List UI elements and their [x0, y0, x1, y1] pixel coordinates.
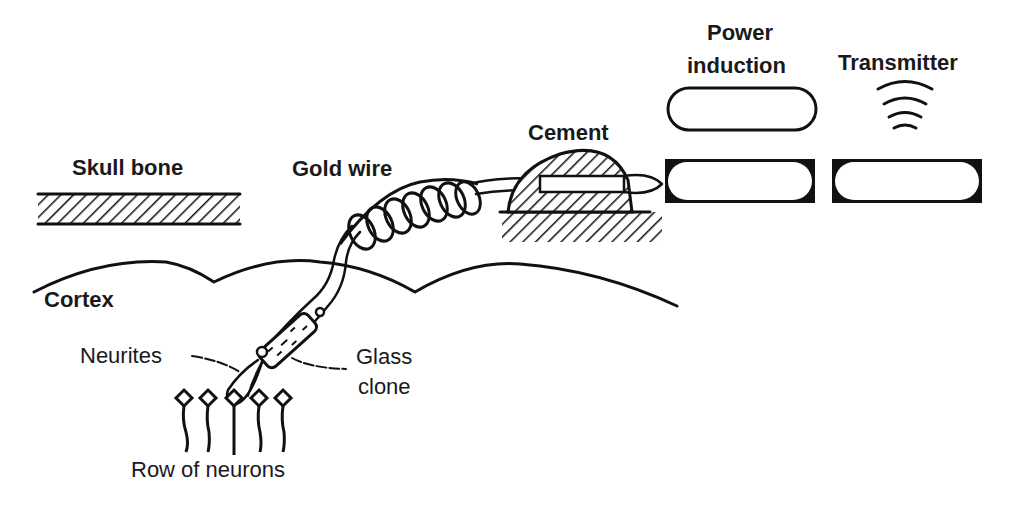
- radio-waves-icon: [878, 82, 932, 129]
- transmitter-implant: [832, 159, 982, 203]
- power-induction-implant: [665, 159, 815, 203]
- glass-clone-leader: [292, 358, 346, 369]
- neuron: [251, 390, 267, 452]
- power-induction-label-line2: induction: [687, 53, 786, 78]
- neurites-label: Neurites: [80, 343, 162, 368]
- neuron-row: [176, 390, 291, 455]
- glass-clone-label-line2: clone: [358, 374, 411, 399]
- neurites-leader: [192, 356, 240, 372]
- cortex-surface: [34, 261, 677, 306]
- glass-clone-label-line1: Glass: [356, 344, 412, 369]
- implant-diagram: Skull bone Cortex Gold wire Cement: [0, 0, 1015, 506]
- glass-electrode: [227, 308, 324, 404]
- cortex-label: Cortex: [44, 287, 114, 312]
- skull-bone: [38, 194, 240, 224]
- gold-wire-label: Gold wire: [292, 156, 392, 181]
- neuron: [200, 390, 216, 452]
- neuron: [275, 390, 291, 452]
- cement-label: Cement: [528, 120, 609, 145]
- transmitter-label: Transmitter: [838, 50, 958, 75]
- power-induction-external-coil: [668, 88, 816, 130]
- power-induction-label-line1: Power: [707, 20, 773, 45]
- row-of-neurons-label: Row of neurons: [131, 457, 285, 482]
- neuron: [176, 390, 192, 452]
- skull-bone-label: Skull bone: [72, 155, 183, 180]
- neuron: [226, 390, 242, 455]
- cement: [500, 150, 662, 242]
